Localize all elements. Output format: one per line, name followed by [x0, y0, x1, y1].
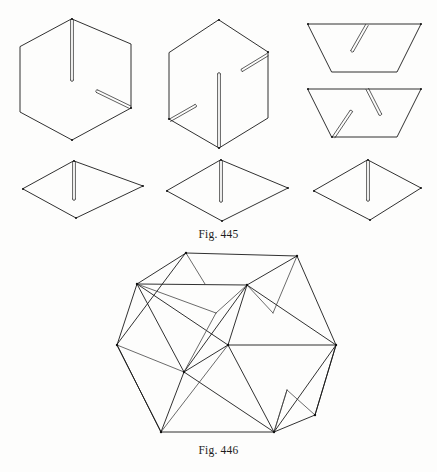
- figure-caption-446: Fig. 446: [0, 444, 437, 456]
- assembled-polyhedron: [116, 252, 337, 433]
- figure-plate: .ln { fill: none; stroke: #1a1a1a; strok…: [0, 0, 437, 472]
- rhombus-piece-2-slot: [220, 161, 223, 202]
- hexagon-piece-1-slot-diagonal: [96, 90, 131, 109]
- hexagon-piece-1-slot-vertical: [71, 20, 74, 81]
- trapezoid-piece-2: [307, 88, 422, 138]
- hexagon-piece-2-slot-vertical: [218, 73, 221, 147]
- trapezoid-piece-2-slot-upper: [366, 88, 382, 115]
- figure-caption-445: Fig. 445: [0, 228, 437, 240]
- rhombus-piece-2: [166, 159, 289, 222]
- hexagon-piece-1: [20, 18, 132, 141]
- trapezoid-piece-1-slot: [351, 25, 368, 53]
- rhombus-piece-1: [22, 160, 144, 219]
- hexagon-piece-2-slot-lower-left: [170, 104, 197, 121]
- trapezoid-piece-1: [307, 23, 422, 72]
- trapezoid-piece-2-slot-lower: [333, 110, 353, 138]
- rhombus-piece-3-slot: [367, 161, 370, 201]
- rhombus-piece-1-slot: [73, 162, 76, 200]
- hexagon-piece-2: [168, 19, 269, 149]
- hexagon-piece-2-slot-upper-right: [241, 54, 268, 72]
- rhombus-piece-3: [313, 159, 422, 221]
